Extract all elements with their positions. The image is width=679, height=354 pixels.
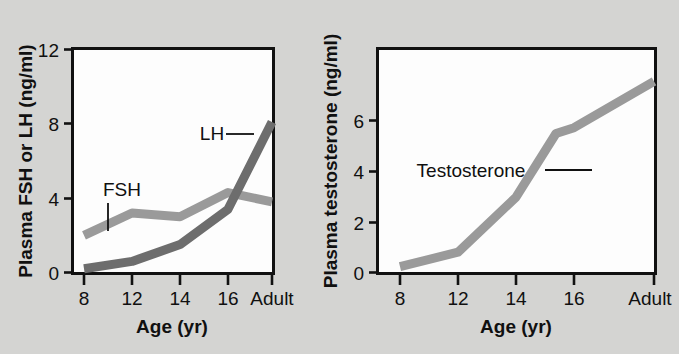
right-y-axis-title: Plasma testosterone (ng/ml) xyxy=(320,34,341,288)
right-x-axis-title: Age (yr) xyxy=(480,316,552,337)
left-xtick-label-8: 8 xyxy=(79,288,90,309)
left-y-ticks xyxy=(64,50,72,273)
left-ytick-label-8: 8 xyxy=(48,114,59,135)
right-x-ticks xyxy=(400,274,654,285)
left-xtick-label-16: 16 xyxy=(217,288,238,309)
left-ytick-label-0: 0 xyxy=(48,263,59,284)
left-y-axis-title: Plasma FSH or LH (ng/ml) xyxy=(15,44,36,277)
left-xtick-label-12: 12 xyxy=(121,288,142,309)
right-xtick-label-8: 8 xyxy=(395,288,406,309)
left-ytick-label-4: 4 xyxy=(48,189,59,210)
right-ytick-label-2: 2 xyxy=(353,213,364,234)
left-panel: 12 8 4 0 8 12 14 16 Adult Plasma FSH or … xyxy=(15,40,294,337)
lh-series-label: LH xyxy=(200,123,224,144)
left-plot-frame xyxy=(73,49,274,274)
left-xtick-label-14: 14 xyxy=(169,288,191,309)
right-ytick-label-4: 4 xyxy=(353,162,364,183)
right-xtick-label-12: 12 xyxy=(447,288,468,309)
testosterone-series-label: Testosterone xyxy=(417,160,526,181)
hormone-levels-figure: 12 8 4 0 8 12 14 16 Adult Plasma FSH or … xyxy=(0,0,679,354)
figure-canvas: 12 8 4 0 8 12 14 16 Adult Plasma FSH or … xyxy=(0,0,679,354)
right-xtick-label-14: 14 xyxy=(505,288,527,309)
left-ytick-label-12: 12 xyxy=(38,40,59,61)
right-xtick-label-adult: Adult xyxy=(628,288,672,309)
right-ytick-label-6: 6 xyxy=(353,111,364,132)
left-x-ticks xyxy=(84,274,272,285)
right-ytick-label-0: 0 xyxy=(353,263,364,284)
right-y-ticks xyxy=(369,121,377,273)
left-xtick-label-adult: Adult xyxy=(250,288,294,309)
fsh-series-label: FSH xyxy=(103,179,141,200)
right-panel: 6 4 2 0 8 12 14 16 Adult Plasma testoste… xyxy=(320,34,672,337)
right-xtick-label-16: 16 xyxy=(563,288,584,309)
left-x-axis-title: Age (yr) xyxy=(136,316,208,337)
